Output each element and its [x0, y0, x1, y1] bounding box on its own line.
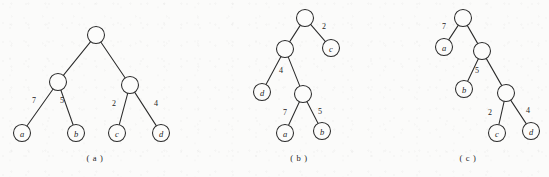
- edge-weight-label: 7: [442, 22, 446, 31]
- tree-edge-a-root-to-a-n1: [63, 42, 90, 76]
- edge-weight-label: 7: [283, 108, 287, 117]
- tree-node-b-n2: [295, 86, 312, 103]
- tree-edge-c-root-to-c-leaf-a: [449, 25, 459, 40]
- tree-edge-b-n2-to-b-leaf-b: [307, 102, 318, 124]
- subfigure-a: 7524abcd( a ): [14, 27, 170, 164]
- tree-node-c-n2: [498, 85, 515, 102]
- tree-edge-c-n2-to-c-leaf-c: [499, 101, 504, 124]
- tree-node-label-b-leaf-a: a: [283, 129, 287, 139]
- edge-weight-label: 5: [475, 66, 479, 75]
- subfigure-caption-b: ( b ): [290, 153, 308, 163]
- tree-node-label-c-leaf-a: a: [442, 43, 446, 53]
- binary-tree-figure: 7524abcd( a )2475cdab( b )7524abcd( c ): [0, 0, 549, 177]
- tree-edge-a-n2-to-a-leaf-c: [119, 93, 128, 125]
- edge-weight-label: 2: [488, 108, 492, 117]
- tree-node-label-a-leaf-c: c: [115, 129, 119, 139]
- tree-node-a-n1: [50, 74, 67, 91]
- tree-edge-b-n1-to-b-n2: [288, 57, 300, 86]
- tree-edge-c-n1-to-c-n2: [486, 58, 502, 85]
- tree-node-label-a-leaf-a: a: [20, 129, 24, 139]
- tree-node-label-c-leaf-b: b: [462, 85, 466, 95]
- edge-weight-label: 2: [112, 99, 116, 108]
- edge-weight-label: 4: [154, 99, 158, 108]
- edge-weight-label: 2: [322, 22, 326, 31]
- tree-node-label-b-leaf-b: b: [320, 127, 324, 137]
- tree-edge-c-root-to-c-n1: [467, 25, 478, 43]
- tree-edge-c-n2-to-c-leaf-d: [511, 100, 527, 124]
- tree-node-a-root: [88, 27, 105, 44]
- subfigure-c: 7524abcd( c ): [436, 10, 540, 164]
- tree-node-a-n2: [122, 77, 139, 94]
- subfigure-b: 2475cdab( b ): [254, 10, 340, 164]
- figure-canvas: 7524abcd( a )2475cdab( b )7524abcd( c ): [0, 0, 549, 177]
- tree-edge-a-n1-to-a-leaf-a: [27, 89, 53, 126]
- tree-node-c-n1: [474, 43, 491, 60]
- tree-node-label-c-leaf-c: c: [495, 129, 499, 139]
- tree-edge-b-root-to-b-n1: [290, 25, 301, 42]
- tree-edge-a-n2-to-a-leaf-d: [135, 92, 157, 126]
- edge-weight-label: 7: [32, 96, 36, 105]
- subfigure-caption-a: ( a ): [86, 153, 103, 163]
- tree-node-label-b-leaf-c: c: [329, 44, 333, 54]
- tree-node-b-n1: [277, 41, 294, 58]
- tree-node-b-root: [297, 10, 314, 27]
- tree-edge-a-root-to-a-n2: [101, 42, 125, 78]
- edge-weight-label: 5: [318, 107, 322, 116]
- edge-weight-label: 5: [60, 96, 64, 105]
- subfigure-caption-c: ( c ): [459, 153, 476, 163]
- tree-node-label-a-leaf-b: b: [74, 129, 78, 139]
- edge-weight-label: 4: [526, 106, 530, 115]
- tree-edge-b-n2-to-b-leaf-a: [289, 102, 300, 126]
- edge-weight-label: 4: [279, 66, 283, 75]
- tree-node-c-root: [455, 10, 472, 27]
